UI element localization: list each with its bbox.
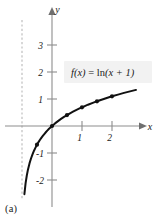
x-axis-arrow-icon: [139, 122, 147, 129]
y-axis-label: y: [54, 4, 60, 15]
data-point-marker: [50, 124, 54, 128]
figure-panel: 1 2 1 2 3 -1 -2 x y f(x) = ln(x + 1): [0, 0, 159, 222]
log-function-plot: 1 2 1 2 3 -1 -2 x y f(x) = ln(x + 1): [0, 0, 159, 222]
y-tick-label-2: 2: [38, 68, 43, 78]
figure-caption: (a): [5, 203, 17, 214]
data-point-marker: [80, 105, 84, 109]
x-tick-label-2: 2: [107, 133, 112, 143]
data-point-marker: [95, 99, 99, 103]
equation-label: f(x) = ln(x + 1): [71, 67, 135, 79]
equation-equals: =: [86, 67, 97, 78]
equation-argument: (x + 1): [105, 67, 135, 79]
x-tick-label-1: 1: [77, 133, 82, 143]
data-point-marker: [65, 113, 69, 117]
data-point-marker: [35, 143, 39, 147]
y-tick-label-neg1: -1: [36, 149, 44, 159]
x-axis-label: x: [147, 121, 153, 132]
y-tick-label-1: 1: [38, 95, 43, 105]
y-tick-label-neg2: -2: [36, 176, 44, 186]
y-tick-label-3: 3: [37, 41, 43, 51]
equation-function-args: (x): [74, 67, 86, 79]
data-point-marker: [110, 94, 114, 98]
